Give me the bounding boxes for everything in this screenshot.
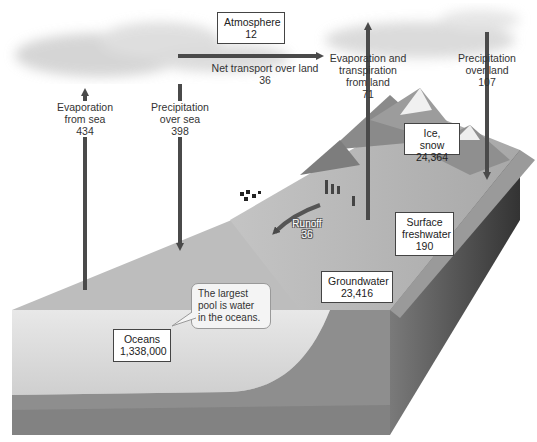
groundwater-pool-box: Groundwater 23,416 — [321, 271, 393, 303]
net-transport-value: 36 — [195, 74, 335, 86]
precipitation-land-value: 107 — [455, 76, 519, 88]
callout-pointer — [170, 310, 200, 330]
settlement — [240, 190, 261, 201]
ice-snow-pool-box: Ice, snow 24,364 — [404, 123, 460, 155]
surface-freshwater-pool-box: Surface freshwater 190 — [395, 212, 454, 256]
ice-snow-value: 24,364 — [411, 151, 453, 163]
atmosphere-label: Atmosphere — [224, 16, 278, 28]
precipitation-land-label: Precipitation over land 107 — [455, 52, 519, 88]
runoff-label: Runoff 36 — [290, 218, 324, 240]
evapotranspiration-label: Evaporation and transpiration from land … — [326, 52, 410, 100]
atmosphere-pool-box: Atmosphere 12 — [217, 12, 285, 44]
evapotranspiration-value: 71 — [326, 88, 410, 100]
precipitation-sea-value: 398 — [148, 125, 212, 137]
oceans-callout: The largest pool is water in the oceans. — [191, 283, 271, 329]
precipitation-sea-label: Precipitation over sea 398 — [148, 101, 212, 137]
surface-freshwater-value: 190 — [402, 240, 447, 252]
groundwater-value: 23,416 — [328, 287, 386, 299]
oceans-value: 1,338,000 — [120, 345, 164, 357]
oceans-pool-box: Oceans 1,338,000 — [113, 329, 171, 362]
runoff-value: 36 — [290, 229, 324, 240]
atmosphere-value: 12 — [224, 28, 278, 40]
evaporation-sea-value: 434 — [55, 125, 115, 137]
net-transport-label: Net transport over land 36 — [195, 62, 335, 86]
evaporation-sea-label: Evaporation from sea 434 — [55, 101, 115, 137]
